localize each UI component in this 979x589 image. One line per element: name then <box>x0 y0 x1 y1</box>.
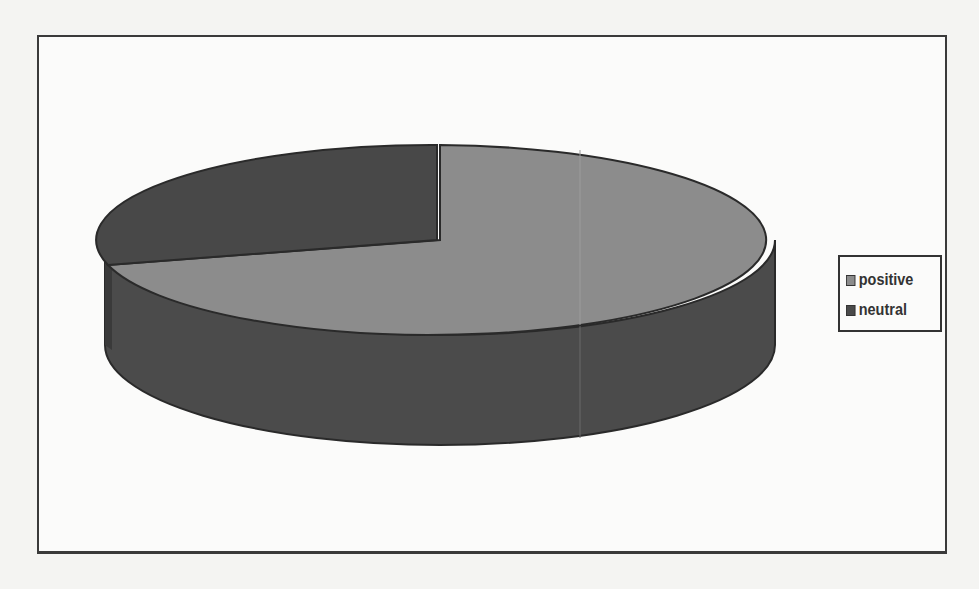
chart-legend: positive neutral <box>838 255 942 332</box>
legend-label: positive <box>859 270 914 290</box>
legend-swatch-neutral <box>846 305 855 316</box>
legend-label: neutral <box>859 300 907 320</box>
legend-swatch-positive <box>846 275 855 286</box>
legend-item-positive[interactable]: positive <box>846 265 926 295</box>
legend-item-neutral[interactable]: neutral <box>846 295 926 325</box>
pie-chart-3d <box>0 0 979 589</box>
